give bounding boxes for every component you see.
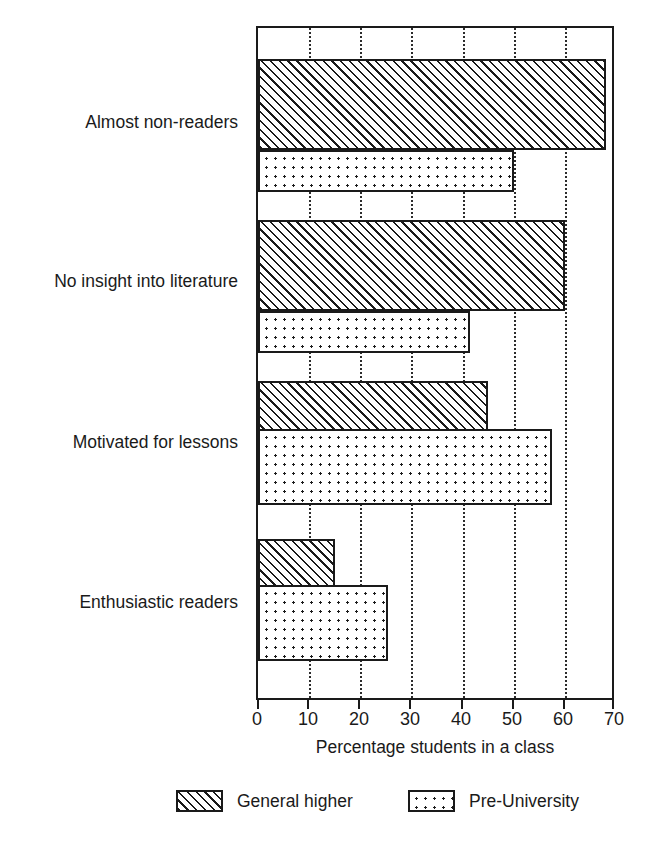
- x-tick-label-20: 20: [337, 708, 381, 730]
- chart-legend: General higher Pre-University: [0, 790, 649, 830]
- x-tick-label-30: 30: [388, 708, 432, 730]
- legend-swatch-dots-icon: [408, 790, 455, 812]
- y-label-almost-non-readers: Almost non-readers: [0, 112, 248, 132]
- legend-item-general-higher: General higher: [176, 790, 353, 812]
- legend-label-pre-university: Pre-University: [469, 790, 579, 812]
- plot-area: [256, 26, 614, 700]
- bar-pre-university-motivated-for-lessons: [258, 429, 552, 505]
- legend-label-general-higher: General higher: [237, 790, 353, 812]
- bar-general-higher-almost-non-readers: [258, 59, 606, 150]
- bar-pre-university-no-insight-into-literature: [258, 311, 470, 353]
- x-tick-label-0: 0: [235, 708, 279, 730]
- x-tick-label-10: 10: [286, 708, 330, 730]
- y-axis-labels: Almost non-readers No insight into liter…: [0, 0, 248, 848]
- bar-chart: Almost non-readers No insight into liter…: [0, 0, 649, 848]
- x-tick-label-70: 70: [592, 708, 636, 730]
- x-tick-label-50: 50: [490, 708, 534, 730]
- bar-general-higher-no-insight-into-literature: [258, 220, 565, 311]
- x-axis-title: Percentage students in a class: [256, 736, 614, 758]
- bar-pre-university-almost-non-readers: [258, 150, 514, 192]
- y-label-enthusiastic-readers: Enthusiastic readers: [0, 592, 248, 612]
- legend-swatch-hatch-icon: [176, 790, 223, 812]
- legend-item-pre-university: Pre-University: [408, 790, 579, 812]
- y-label-motivated-for-lessons: Motivated for lessons: [0, 432, 248, 452]
- y-label-no-insight-into-literature: No insight into literature: [0, 271, 248, 291]
- x-tick-label-40: 40: [439, 708, 483, 730]
- x-tick-label-60: 60: [541, 708, 585, 730]
- bar-pre-university-enthusiastic-readers: [258, 585, 388, 661]
